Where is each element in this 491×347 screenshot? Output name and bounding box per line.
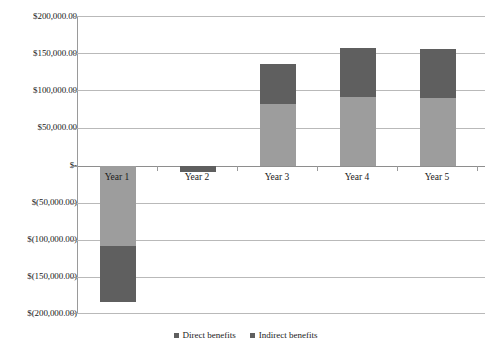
legend-item-indirect-benefits[interactable]: Indirect benefits	[250, 330, 318, 340]
y-axis-line	[77, 16, 78, 313]
x-axis-label-year-1: Year 1	[77, 172, 157, 182]
chart-legend: Direct benefits Indirect benefits	[0, 330, 491, 340]
y-axis-tick-label: $(50,000.00)	[3, 198, 77, 207]
y-axis-tick-label: $-	[3, 161, 77, 170]
bar-group-year-2[interactable]	[180, 16, 216, 313]
bar-group-year-3[interactable]	[260, 16, 296, 313]
plot-area	[77, 16, 485, 313]
chart-container: $200,000.00 $150,000.00 $100,000.00 $50,…	[0, 0, 491, 347]
y-axis-tick-label: $50,000.00	[3, 123, 77, 132]
y-axis-tick-label: $200,000.00	[3, 12, 77, 21]
x-axis-tick-mark	[397, 166, 398, 171]
bar-group-year-4[interactable]	[340, 16, 376, 313]
x-axis-tick-mark	[237, 166, 238, 171]
bar-segment-direct-benefits[interactable]	[420, 98, 456, 166]
x-axis-label-year-5: Year 5	[397, 172, 477, 182]
bar-segment-direct-benefits[interactable]	[340, 97, 376, 166]
x-axis-label-year-4: Year 4	[317, 172, 397, 182]
bar-segment-indirect-benefits[interactable]	[340, 48, 376, 97]
x-axis-tick-mark	[477, 166, 478, 171]
x-axis-label-year-2: Year 2	[157, 172, 237, 182]
bar-segment-indirect-benefits[interactable]	[260, 64, 296, 104]
y-axis-tick-label: $(150,000.00)	[3, 272, 77, 281]
legend-label: Indirect benefits	[259, 330, 318, 340]
bar-group-year-5[interactable]	[420, 16, 456, 313]
x-axis-tick-mark	[317, 166, 318, 171]
y-axis-tick-label: $100,000.00	[3, 86, 77, 95]
bar-segment-indirect-benefits[interactable]	[100, 246, 136, 302]
y-axis-tick-label: $(100,000.00)	[3, 235, 77, 244]
x-axis-tick-mark	[157, 166, 158, 171]
y-axis-tick-label: $(200,000.00)	[3, 309, 77, 318]
bar-segment-direct-benefits[interactable]	[260, 104, 296, 166]
gridline	[77, 313, 485, 314]
legend-label: Direct benefits	[183, 330, 236, 340]
legend-swatch-icon	[250, 333, 255, 338]
bar-group-year-1[interactable]	[100, 16, 136, 313]
legend-item-direct-benefits[interactable]: Direct benefits	[174, 330, 236, 340]
bar-segment-indirect-benefits[interactable]	[420, 49, 456, 98]
y-axis: $200,000.00 $150,000.00 $100,000.00 $50,…	[0, 0, 77, 347]
x-axis-tick-mark	[77, 166, 78, 171]
legend-swatch-icon	[174, 333, 179, 338]
y-axis-tick-label: $150,000.00	[3, 49, 77, 58]
x-axis-label-year-3: Year 3	[237, 172, 317, 182]
